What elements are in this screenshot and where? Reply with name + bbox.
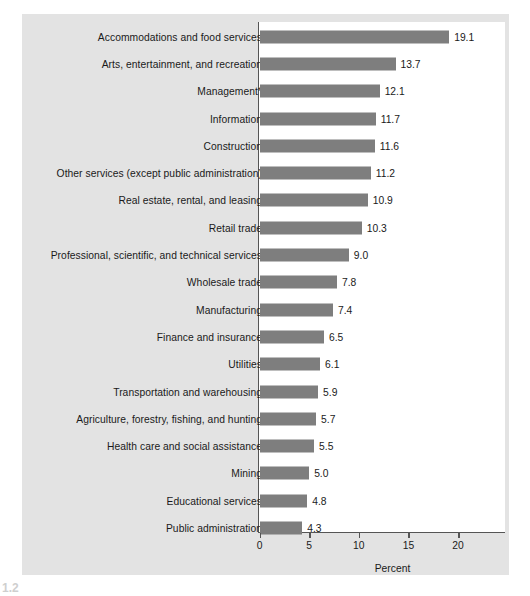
bar-row: Mining5.0	[0, 460, 530, 487]
bar-row: Arts, entertainment, and recreation13.7	[0, 50, 530, 77]
bar-value-label: 12.1	[385, 86, 405, 97]
bar-row: Finance and insurance6.5	[0, 323, 530, 350]
bar-row: Manufacturing7.4	[0, 296, 530, 323]
bar-row: Information11.7	[0, 105, 530, 132]
category-label: Real estate, rental, and leasing	[118, 195, 262, 206]
category-label: Transportation and warehousing	[113, 386, 262, 397]
bar-row: Utilities6.1	[0, 351, 530, 378]
category-label: Finance and insurance	[157, 331, 262, 342]
bar	[260, 57, 396, 70]
bar-row: Construction11.6	[0, 132, 530, 159]
bar-value-label: 6.5	[329, 331, 343, 342]
category-label: Mining	[231, 468, 262, 479]
bar	[260, 221, 362, 234]
bar	[260, 139, 375, 152]
bar-value-label: 13.7	[401, 58, 421, 69]
bar	[260, 112, 376, 125]
bar-row: Management*12.1	[0, 78, 530, 105]
x-tick-mark	[408, 533, 410, 538]
x-tick-label: 15	[403, 540, 414, 551]
bar	[260, 167, 371, 180]
bar	[260, 276, 337, 289]
bar-row: Educational services4.8	[0, 487, 530, 514]
category-label: Agriculture, forestry, fishing, and hunt…	[76, 413, 262, 424]
x-tick-label: 10	[353, 540, 364, 551]
category-label: Professional, scientific, and technical …	[51, 250, 262, 261]
bar-row: Professional, scientific, and technical …	[0, 241, 530, 268]
bar-rows: Accommodations and food services19.1Arts…	[0, 0, 530, 596]
category-label: Utilities	[228, 359, 262, 370]
category-label: Manufacturing	[196, 304, 262, 315]
bar-value-label: 5.5	[319, 441, 333, 452]
x-tick-mark	[359, 533, 361, 538]
bar-row: Retail trade10.3	[0, 214, 530, 241]
bar-value-label: 4.3	[307, 523, 321, 534]
bar	[260, 303, 333, 316]
bar-value-label: 11.7	[381, 113, 400, 124]
bar	[260, 467, 310, 480]
bar	[260, 440, 315, 453]
bar	[260, 494, 308, 507]
x-tick-mark	[458, 533, 460, 538]
x-axis-title: Percent	[0, 563, 530, 574]
bar	[260, 358, 321, 371]
category-label: Management*	[197, 86, 262, 97]
bar-row: Health care and social assistance5.5	[0, 433, 530, 460]
category-label: Arts, entertainment, and recreation	[102, 58, 262, 69]
bar-value-label: 9.0	[354, 250, 368, 261]
bar-value-label: 19.1	[454, 31, 474, 42]
bar-row: Wholesale trade7.8	[0, 269, 530, 296]
bar-value-label: 6.1	[325, 359, 339, 370]
figure-caption-number: 1.2	[2, 581, 19, 595]
bar	[260, 194, 368, 207]
bar	[260, 30, 450, 43]
bar-value-label: 11.6	[380, 140, 399, 151]
bar-value-label: 7.4	[338, 304, 352, 315]
chart-page: Accommodations and food services19.1Arts…	[0, 0, 530, 596]
category-label: Public administration	[166, 523, 262, 534]
bar-value-label: 5.0	[314, 468, 328, 479]
x-tick-mark	[260, 533, 262, 538]
bar-value-label: 10.3	[367, 222, 387, 233]
category-label: Wholesale trade	[187, 277, 262, 288]
bar-row: Agriculture, forestry, fishing, and hunt…	[0, 405, 530, 432]
category-label: Construction	[204, 140, 262, 151]
bar-row: Other services (except public administra…	[0, 160, 530, 187]
bar-row: Real estate, rental, and leasing10.9	[0, 187, 530, 214]
bar	[260, 385, 319, 398]
bar-value-label: 5.7	[321, 413, 335, 424]
bar	[260, 249, 349, 262]
bar	[260, 330, 325, 343]
bar-row: Transportation and warehousing5.9	[0, 378, 530, 405]
category-label: Other services (except public administra…	[57, 168, 262, 179]
x-axis-ticks: 05101520	[0, 533, 530, 555]
category-label: Retail trade	[209, 222, 262, 233]
x-tick-label: 5	[306, 540, 312, 551]
bar-value-label: 11.2	[376, 168, 395, 179]
bar	[260, 412, 317, 425]
x-tick-label: 0	[257, 540, 263, 551]
category-label: Health care and social assistance	[107, 441, 262, 452]
figure-caption: 1.2	[2, 581, 19, 595]
bar-value-label: 4.8	[312, 495, 326, 506]
category-label: Accommodations and food services	[98, 31, 262, 42]
bar-value-label: 5.9	[323, 386, 337, 397]
category-label: Educational services	[167, 495, 262, 506]
bar	[260, 85, 380, 98]
category-label: Information	[210, 113, 262, 124]
bar-value-label: 7.8	[342, 277, 356, 288]
bar-value-label: 10.9	[373, 195, 393, 206]
bar-row: Accommodations and food services19.1	[0, 23, 530, 50]
x-tick-label: 20	[452, 540, 463, 551]
x-tick-mark	[309, 533, 311, 538]
